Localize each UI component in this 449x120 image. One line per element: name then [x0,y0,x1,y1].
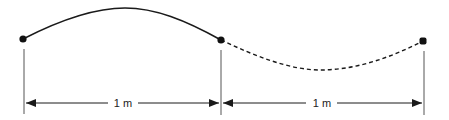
crest-curve [23,8,221,40]
dim-right-label: 1 m [313,97,331,109]
middle-node-dot [217,36,224,43]
right-node-dot [420,38,427,45]
left-node-dot [19,35,26,42]
trough-curve [221,40,423,70]
dim-left-label: 1 m [114,97,132,109]
wave-diagram: 1 m 1 m [0,0,449,120]
